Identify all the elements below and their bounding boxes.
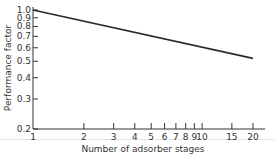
x-tick-label: 15	[226, 132, 237, 142]
y-tick-label: 0.3	[17, 94, 31, 104]
y-tick-label: 0.4	[17, 73, 32, 83]
x-tick-label: 2	[81, 132, 87, 142]
x-tick-label: 8	[183, 132, 189, 142]
x-tick-label: 1	[30, 132, 36, 142]
x-tick-label: 6	[162, 132, 168, 142]
x-tick-label: 3	[111, 132, 117, 142]
x-tick-label: 5	[148, 132, 154, 142]
x-tick-label: 20	[247, 132, 259, 142]
x-tick-label: 4	[132, 132, 138, 142]
x-tick-label: 7	[173, 132, 179, 142]
performance-line	[33, 10, 253, 58]
y-tick-label: 0.5	[17, 56, 31, 66]
x-tick-label: 10	[196, 132, 208, 142]
chart: 0.20.30.40.50.60.70.80.91.01234567891015…	[0, 0, 275, 158]
y-tick-label: 0.8	[17, 21, 32, 31]
x-axis-label: Number of adsorber stages	[81, 144, 204, 154]
y-tick-label: 0.6	[17, 43, 32, 53]
y-axis-label: Performance factor	[3, 25, 13, 112]
y-tick-label: 0.7	[17, 31, 31, 41]
y-tick-label: 0.2	[17, 124, 31, 134]
y-tick-label: 1.0	[17, 5, 32, 15]
